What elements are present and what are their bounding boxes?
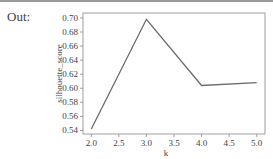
y-tick-label: 0.58 [62, 97, 78, 107]
y-tick-label: 0.70 [62, 13, 78, 23]
silhouette-line-chart: 2.02.53.03.54.04.55.00.540.560.580.600.6… [0, 0, 273, 159]
x-tick-label: 5.0 [251, 138, 263, 148]
y-tick-label: 0.60 [62, 83, 78, 93]
x-tick-label: 2.0 [86, 138, 98, 148]
y-tick-label: 0.68 [62, 27, 78, 37]
x-tick-label: 4.0 [196, 138, 208, 148]
x-tick-label: 2.5 [113, 138, 125, 148]
y-axis-label: silhouette_score [54, 44, 64, 102]
plot-frame [83, 13, 265, 134]
x-axis-label: k [164, 148, 169, 158]
x-tick-label: 3.0 [141, 138, 153, 148]
y-tick-label: 0.54 [62, 125, 78, 135]
y-tick-label: 0.66 [62, 41, 78, 51]
y-tick-label: 0.62 [62, 69, 78, 79]
series-line [91, 19, 256, 129]
y-tick-label: 0.64 [62, 55, 78, 65]
x-tick-label: 4.5 [224, 138, 236, 148]
x-tick-label: 3.5 [168, 138, 180, 148]
y-tick-label: 0.56 [62, 111, 78, 121]
